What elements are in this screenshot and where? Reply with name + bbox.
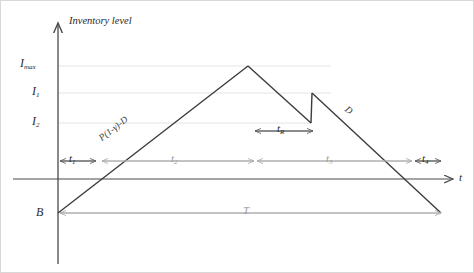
interval-t1-label: t1 [69, 152, 76, 166]
axes [13, 23, 453, 264]
interval-t4-sub: 4 [425, 158, 429, 166]
inventory-diagram-figure: Inventory level t Imax I1 I2 P(1-γ)-D D … [0, 0, 474, 273]
interval-t2-label: t2 [171, 152, 178, 166]
gridlines [58, 66, 331, 123]
interval-t3-sub: 3 [329, 158, 333, 166]
y-tick-imax-sub: max [24, 63, 36, 71]
diagram-canvas [1, 1, 474, 273]
y-tick-imax: Imax [20, 56, 36, 71]
origin-label-b: B [36, 205, 43, 220]
y-axis-title: Inventory level [69, 15, 132, 26]
interval-tr-label: tR [277, 122, 284, 136]
interval-t2-sub: 2 [174, 158, 178, 166]
interval-tr-sub: R [280, 128, 284, 136]
inventory-curve [58, 66, 441, 213]
y-tick-i1-sub: 1 [36, 91, 40, 99]
cycle-length-base: T [243, 204, 249, 216]
cycle-length-label: T [243, 204, 249, 216]
interval-arrows [60, 131, 441, 213]
interval-t1-sub: 1 [72, 158, 76, 166]
y-tick-i2-sub: 2 [36, 121, 40, 129]
y-tick-i1: I1 [32, 84, 40, 99]
interval-t4-label: t4 [422, 152, 429, 166]
interval-t3-label: t3 [326, 152, 333, 166]
y-tick-i2: I2 [32, 114, 40, 129]
x-axis-title: t [459, 171, 462, 183]
